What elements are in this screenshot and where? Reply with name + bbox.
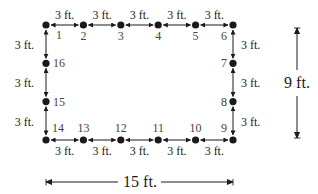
post-number-12: 12 (115, 121, 127, 135)
overall-width-label: 15 ft. (123, 173, 157, 190)
segment-label: 3 ft. (55, 8, 74, 22)
post-15 (42, 98, 49, 105)
post-number-5: 5 (193, 29, 199, 43)
segment-label: 3 ft. (241, 38, 260, 52)
post-number-8: 8 (221, 95, 227, 109)
post-number-7: 7 (221, 56, 227, 70)
segment-label: 3 ft. (15, 38, 34, 52)
segment-label: 3 ft. (205, 144, 224, 158)
post-11 (155, 136, 162, 143)
post-9 (229, 136, 236, 143)
post-layout-diagram: 12345678910111213141516 3 ft.3 ft.3 ft.3… (0, 0, 318, 194)
post-8 (229, 98, 236, 105)
post-number-14: 14 (52, 121, 64, 135)
segment-label: 3 ft. (15, 115, 34, 129)
post-number-11: 11 (152, 121, 164, 135)
post-number-2: 2 (80, 29, 86, 43)
post-number-10: 10 (190, 121, 202, 135)
segment-label: 3 ft. (167, 144, 186, 158)
post-7 (229, 60, 236, 67)
post-number-16: 16 (53, 56, 65, 70)
segment-label: 3 ft. (130, 8, 149, 22)
post-number-13: 13 (77, 121, 89, 135)
segment-label: 3 ft. (92, 144, 111, 158)
post-16 (42, 60, 49, 67)
posts (42, 21, 236, 143)
post-5 (192, 21, 199, 28)
post-4 (155, 21, 162, 28)
segment-label: 3 ft. (241, 115, 260, 129)
segment-label: 3 ft. (55, 144, 74, 158)
overall-height-label: 9 ft. (284, 74, 310, 91)
segment-label: 3 ft. (130, 144, 149, 158)
post-10 (192, 136, 199, 143)
post-number-1: 1 (56, 28, 62, 42)
post-number-6: 6 (221, 29, 227, 43)
post-14 (42, 136, 49, 143)
segment-label: 3 ft. (92, 8, 111, 22)
segment-label: 3 ft. (15, 76, 34, 90)
post-6 (229, 21, 236, 28)
post-3 (117, 21, 124, 28)
segment-label: 3 ft. (241, 76, 260, 90)
post-numbers: 12345678910111213141516 (52, 28, 227, 135)
segment-arrows (46, 25, 233, 140)
post-1 (42, 21, 49, 28)
post-2 (80, 21, 87, 28)
post-13 (80, 136, 87, 143)
post-number-9: 9 (221, 121, 227, 135)
post-number-4: 4 (155, 29, 161, 43)
post-number-3: 3 (118, 29, 124, 43)
post-number-15: 15 (53, 95, 65, 109)
segment-label: 3 ft. (205, 8, 224, 22)
post-12 (117, 136, 124, 143)
segment-label: 3 ft. (167, 8, 186, 22)
